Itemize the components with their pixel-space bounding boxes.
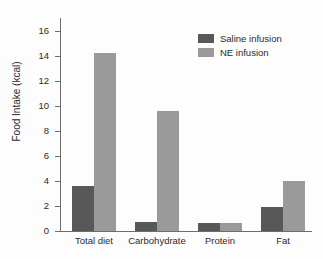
y-tick-label: 4	[25, 176, 49, 186]
bar	[157, 111, 179, 231]
bar	[72, 186, 94, 231]
bar-group	[72, 18, 116, 231]
bar	[283, 181, 305, 231]
bar	[261, 207, 283, 231]
bar	[135, 222, 157, 231]
y-tick-label: 16	[25, 26, 49, 36]
bar-chart: Food Intake (kcal) 0246810121416 Total d…	[0, 0, 323, 259]
legend-label: Saline infusion	[220, 34, 282, 44]
bar-group	[135, 18, 179, 231]
y-tick-label: 0	[25, 226, 49, 236]
x-axis-category-label: Fat	[243, 235, 323, 246]
legend-label: NE infusion	[220, 48, 269, 58]
bar	[220, 223, 242, 231]
y-tick-label: 14	[25, 51, 49, 61]
legend-swatch	[198, 48, 214, 57]
legend-swatch	[198, 34, 214, 43]
chart-legend: Saline infusionNE infusion	[198, 33, 282, 61]
y-tick-mark	[55, 231, 61, 232]
y-tick-label: 8	[25, 126, 49, 136]
y-tick-label: 2	[25, 201, 49, 211]
bar	[94, 53, 116, 231]
y-tick-label: 12	[25, 76, 49, 86]
legend-item: Saline infusion	[198, 33, 282, 44]
x-axis-line	[60, 231, 312, 232]
y-tick-label: 10	[25, 101, 49, 111]
bar	[198, 223, 220, 231]
y-tick-label: 6	[25, 151, 49, 161]
y-axis-title: Food Intake (kcal)	[11, 42, 22, 162]
legend-item: NE infusion	[198, 47, 282, 58]
